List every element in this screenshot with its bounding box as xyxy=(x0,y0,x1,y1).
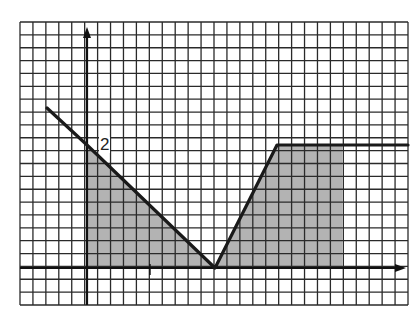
grid xyxy=(20,22,408,305)
y-intercept-label: 2 xyxy=(99,137,110,153)
axes xyxy=(20,27,406,305)
x-axis-arrow-icon xyxy=(395,264,406,272)
function-graph xyxy=(0,0,418,327)
